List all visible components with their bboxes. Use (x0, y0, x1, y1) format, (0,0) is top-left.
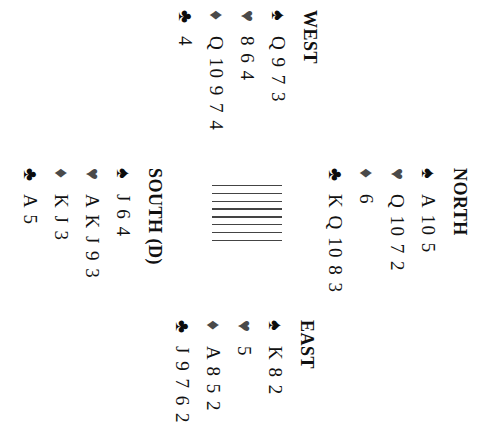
club-icon: ♣ (170, 10, 201, 32)
heart-icon: ♥ (229, 320, 260, 342)
cards-clubs: A 5 (15, 194, 46, 225)
cards-clubs: K Q 10 8 3 (320, 194, 351, 293)
suit-row-hearts: ♥ 8 6 4 (232, 10, 263, 131)
suit-row-spades: ♠ A 10 5 (413, 168, 444, 293)
spade-icon: ♠ (413, 168, 444, 190)
bridge-deal-diagram: WEST ♠ Q 9 7 3 ♥ 8 6 4 ♦ Q 10 9 7 4 ♣ 4 … (0, 0, 487, 433)
cards-hearts: Q 10 7 2 (382, 194, 413, 272)
suit-row-diamonds: ♦ A 8 5 2 (198, 320, 229, 424)
suit-row-clubs: ♣ J 9 7 6 2 (167, 320, 198, 424)
suit-row-hearts: ♥ Q 10 7 2 (382, 168, 413, 293)
cards-spades: J 6 4 (108, 194, 139, 237)
cards-spades: Q 9 7 3 (263, 36, 294, 103)
table-line (212, 193, 282, 194)
cards-hearts: 5 (229, 346, 260, 357)
diamond-icon: ♦ (201, 10, 232, 32)
hand-title: SOUTH (D) (139, 168, 170, 279)
club-icon: ♣ (167, 320, 198, 342)
cards-clubs: J 9 7 6 2 (167, 346, 198, 424)
hand-title: EAST (291, 320, 322, 424)
cards-spades: A 10 5 (413, 194, 444, 254)
cards-diamonds: A 8 5 2 (198, 346, 229, 412)
diamond-icon: ♦ (46, 168, 77, 190)
table-line (212, 201, 282, 202)
hand-title: NORTH (444, 168, 475, 293)
cards-spades: K 8 2 (260, 346, 291, 396)
hand-east: EAST ♠ K 8 2 ♥ 5 ♦ A 8 5 2 ♣ J 9 7 6 2 (167, 320, 322, 424)
spade-icon: ♠ (260, 320, 291, 342)
cards-diamonds: K J 3 (46, 194, 77, 242)
cards-clubs: 4 (170, 36, 201, 47)
hand-north: NORTH ♠ A 10 5 ♥ Q 10 7 2 ♦ 6 ♣ K Q 10 8… (320, 168, 475, 293)
suit-row-spades: ♠ K 8 2 (260, 320, 291, 424)
table-center-marker (212, 185, 282, 241)
suit-row-clubs: ♣ 4 (170, 10, 201, 131)
suit-row-spades: ♠ Q 9 7 3 (263, 10, 294, 131)
suit-row-spades: ♠ J 6 4 (108, 168, 139, 279)
heart-icon: ♥ (77, 168, 108, 190)
suit-row-hearts: ♥ 5 (229, 320, 260, 424)
cards-hearts: A K J 9 3 (77, 194, 108, 279)
table-line (212, 224, 282, 225)
table-line (212, 240, 282, 241)
table-line (212, 216, 282, 217)
hand-west: WEST ♠ Q 9 7 3 ♥ 8 6 4 ♦ Q 10 9 7 4 ♣ 4 (170, 10, 325, 131)
table-line (212, 232, 282, 233)
spade-icon: ♠ (263, 10, 294, 32)
suit-row-diamonds: ♦ Q 10 9 7 4 (201, 10, 232, 131)
suit-row-clubs: ♣ K Q 10 8 3 (320, 168, 351, 293)
cards-diamonds: Q 10 9 7 4 (201, 36, 232, 131)
hand-title: WEST (294, 10, 325, 131)
suit-row-hearts: ♥ A K J 9 3 (77, 168, 108, 279)
heart-icon: ♥ (382, 168, 413, 190)
table-line (212, 185, 282, 186)
suit-row-diamonds: ♦ 6 (351, 168, 382, 293)
club-icon: ♣ (320, 168, 351, 190)
suit-row-clubs: ♣ A 5 (15, 168, 46, 279)
cards-hearts: 8 6 4 (232, 36, 263, 82)
heart-icon: ♥ (232, 10, 263, 32)
hand-south: SOUTH (D) ♠ J 6 4 ♥ A K J 9 3 ♦ K J 3 ♣ … (15, 168, 170, 279)
suit-row-diamonds: ♦ K J 3 (46, 168, 77, 279)
diamond-icon: ♦ (351, 168, 382, 190)
cards-diamonds: 6 (351, 194, 382, 205)
spade-icon: ♠ (108, 168, 139, 190)
table-line (212, 208, 282, 209)
diamond-icon: ♦ (198, 320, 229, 342)
club-icon: ♣ (15, 168, 46, 190)
